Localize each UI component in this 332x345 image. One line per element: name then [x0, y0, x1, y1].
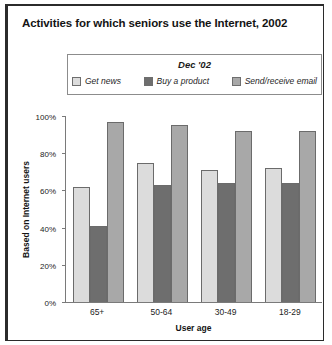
y-axis-tick-label: 20%: [40, 261, 56, 270]
bar: [299, 131, 316, 302]
chart-figure: Activities for which seniors use the Int…: [0, 0, 332, 345]
legend-item-send-receive-email: Send/receive email: [232, 76, 317, 86]
bar-group: [66, 116, 130, 302]
chart-legend: Dec '02 Get news Buy a product Send/rece…: [67, 54, 322, 95]
bar: [154, 185, 171, 302]
legend-swatch-icon-buy-a-product: [144, 77, 153, 86]
legend-label-get-news: Get news: [85, 76, 121, 86]
legend-title: Dec '02: [68, 59, 321, 70]
legend-swatch-icon-get-news: [72, 77, 81, 86]
chart-title: Activities for which seniors use the Int…: [22, 16, 322, 30]
x-axis-tick-label: 65+: [65, 307, 129, 317]
bar-group-bars: [130, 116, 194, 302]
bar-group-bars: [194, 116, 258, 302]
legend-swatch-icon-send-receive-email: [232, 77, 241, 86]
y-axis-tick-label: 80%: [40, 150, 56, 159]
x-axis-tick-label: 18-29: [258, 307, 322, 317]
legend-item-get-news: Get news: [72, 76, 121, 86]
bar: [282, 183, 299, 302]
bar: [107, 122, 124, 302]
bar-groups: [66, 116, 322, 302]
legend-label-send-receive-email: Send/receive email: [245, 76, 317, 86]
bar: [90, 226, 107, 302]
bar-group-bars: [66, 116, 130, 302]
bar-group: [194, 116, 258, 302]
y-axis-title: Based on Internet users: [21, 116, 35, 303]
x-axis-title: User age: [65, 323, 322, 333]
bar-group-bars: [258, 116, 322, 302]
bar: [265, 168, 282, 302]
bar: [235, 131, 252, 302]
plot-area: 0%20%40%60%80%100%: [65, 116, 322, 303]
x-axis-tick-labels: 65+50-6430-4918-29: [65, 307, 322, 317]
bar: [73, 187, 90, 302]
bar-group: [258, 116, 322, 302]
bar: [171, 125, 188, 302]
bar-group: [130, 116, 194, 302]
x-axis-tick-label: 30-49: [194, 307, 258, 317]
legend-items: Get news Buy a product Send/receive emai…: [68, 76, 321, 86]
y-axis-tick-label: 100%: [36, 113, 56, 122]
legend-item-buy-a-product: Buy a product: [144, 76, 209, 86]
bar: [137, 163, 154, 303]
y-axis-tick-mark: 0%: [62, 302, 66, 303]
y-axis-tick-label: 40%: [40, 224, 56, 233]
y-axis-tick-label: 60%: [40, 187, 56, 196]
bar: [201, 170, 218, 302]
chart-frame: Activities for which seniors use the Int…: [5, 4, 324, 341]
x-axis-tick-label: 50-64: [129, 307, 193, 317]
y-axis-tick-label: 0%: [44, 299, 56, 308]
legend-label-buy-a-product: Buy a product: [157, 76, 209, 86]
bar: [218, 183, 235, 302]
